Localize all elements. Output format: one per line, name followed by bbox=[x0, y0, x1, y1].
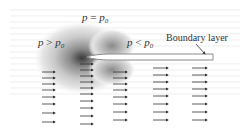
label-stagnation-pressure: p > p0 bbox=[38, 37, 64, 50]
boundary-layer-pointer bbox=[196, 44, 205, 54]
flow-diagram bbox=[0, 0, 243, 138]
label-ambient-pressure: p = p0 bbox=[82, 12, 108, 25]
label-suction-pressure: p < p0 bbox=[127, 37, 153, 50]
label-boundary-layer: Boundary layer bbox=[166, 33, 228, 43]
flat-plate bbox=[87, 54, 213, 60]
